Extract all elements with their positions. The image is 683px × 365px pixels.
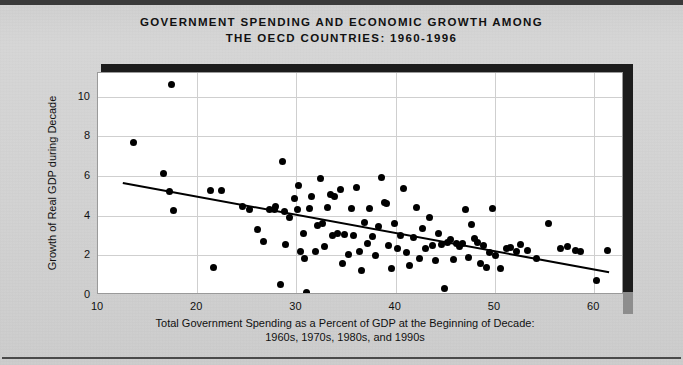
chart-area: 0246810 102030405060	[97, 72, 623, 294]
y-axis-tick-label: 2	[84, 248, 90, 260]
chart-title-line-1: GOVERNMENT SPENDING AND ECONOMIC GROWTH …	[0, 14, 683, 30]
chart-title-line-2: THE OECD COUNTRIES: 1960-1996	[0, 30, 683, 46]
x-axis-tick-label: 40	[389, 300, 401, 312]
top-rule	[0, 0, 683, 5]
plot-shadow-right	[623, 64, 633, 292]
x-axis-tick-label: 50	[488, 300, 500, 312]
x-axis-label-line-2: 1960s, 1970s, 1980s, and 1990s	[60, 330, 630, 344]
bottom-rule	[2, 357, 681, 359]
y-axis-tick-label: 4	[84, 209, 90, 221]
plot-shadow-right-lower	[623, 292, 633, 314]
y-axis-tick-label: 6	[84, 169, 90, 181]
trendline	[98, 73, 623, 294]
x-axis-tick-label: 10	[91, 300, 103, 312]
plot-shadow-top	[101, 64, 633, 72]
y-axis-tick-label: 0	[84, 288, 90, 300]
x-axis-tick-label: 30	[289, 300, 301, 312]
y-axis-label: Growth of Real GDP during Decade	[46, 72, 60, 294]
y-axis-tick-label: 10	[78, 90, 90, 102]
x-axis-label-line-1: Total Government Spending as a Percent o…	[60, 316, 630, 330]
plot-frame	[97, 72, 623, 294]
x-axis-tick-label: 20	[190, 300, 202, 312]
chart-title: GOVERNMENT SPENDING AND ECONOMIC GROWTH …	[0, 14, 683, 46]
x-axis-tick-label: 60	[587, 300, 599, 312]
y-axis-tick-label: 8	[84, 129, 90, 141]
x-axis-label: Total Government Spending as a Percent o…	[60, 316, 630, 344]
